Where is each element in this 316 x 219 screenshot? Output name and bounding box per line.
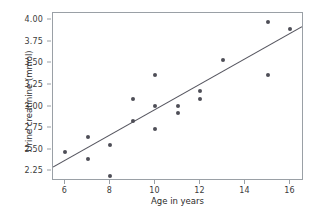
data-point (176, 111, 180, 115)
x-tick-mark (244, 180, 245, 184)
data-point (63, 150, 67, 154)
plot-area (52, 12, 303, 180)
data-point (266, 20, 270, 24)
data-point (176, 104, 180, 108)
x-tick-label: 10 (149, 186, 160, 195)
x-tick-mark (199, 180, 200, 184)
x-tick-label: 12 (194, 186, 205, 195)
data-points-layer (53, 13, 302, 179)
x-axis-label: Age in years (52, 196, 303, 206)
y-tick-mark (47, 62, 51, 63)
x-tick-mark (289, 180, 290, 184)
x-tick-label: 14 (239, 186, 250, 195)
data-point (153, 73, 157, 77)
x-tick-mark (109, 180, 110, 184)
y-tick-mark (47, 83, 51, 84)
x-tick-label: 8 (107, 186, 112, 195)
data-point (198, 97, 202, 101)
data-point (266, 73, 270, 77)
y-tick-mark (47, 40, 51, 41)
x-tick-label: 16 (284, 186, 295, 195)
data-point (86, 157, 90, 161)
x-tick-label: 6 (62, 186, 67, 195)
data-point (221, 58, 225, 62)
data-point (153, 104, 157, 108)
data-point (131, 119, 135, 123)
x-tick-mark (154, 180, 155, 184)
y-tick-label: 4.00 (24, 14, 43, 23)
y-tick-mark (47, 127, 51, 128)
x-tick-mark (64, 180, 65, 184)
data-point (108, 143, 112, 147)
data-point (288, 27, 292, 31)
data-point (198, 89, 202, 93)
y-axis-label: Urine creatinine (mmol) (24, 26, 34, 176)
y-tick-mark (47, 170, 51, 171)
y-tick-mark (47, 148, 51, 149)
data-point (86, 135, 90, 139)
y-tick-mark (47, 105, 51, 106)
data-point (131, 97, 135, 101)
data-point (108, 174, 112, 178)
scatter-chart-figure: 2.252.502.753.003.253.503.754.00 Urine c… (0, 0, 316, 219)
y-tick-mark (47, 18, 51, 19)
data-point (153, 127, 157, 131)
